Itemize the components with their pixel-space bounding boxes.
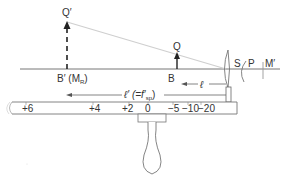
ruler-tick-plus6: +6	[22, 103, 34, 114]
optometer-diagram: Q′ Q B B′ (MR) S P M′ ℓ ℓ′ (=f′sp)	[0, 0, 291, 182]
speck	[26, 163, 27, 164]
ruler-tick-minus5: −5	[168, 103, 180, 114]
ruler-tick-0: 0	[145, 103, 151, 114]
label-b: B	[168, 73, 175, 84]
pupil-curve	[241, 61, 246, 82]
label-q: Q	[173, 41, 181, 52]
virtual-image-arrow	[64, 21, 71, 69]
label-q-prime: Q′	[62, 7, 72, 18]
label-ell: ℓ	[199, 79, 204, 90]
ruler-tick-plus4: +4	[89, 103, 101, 114]
lens-post	[226, 87, 231, 102]
label-p: P	[248, 58, 255, 69]
light-ray	[67, 22, 226, 69]
ell-distance-arrow	[181, 82, 226, 86]
ruler-tick-minus10: −10	[182, 103, 199, 114]
label-m-prime: M′	[265, 58, 275, 69]
ruler-tick-minus20: −20	[198, 103, 215, 114]
label-b-prime: B′ (MR)	[57, 73, 88, 85]
label-s: S	[234, 58, 241, 69]
ruler-tick-plus2: +2	[122, 103, 134, 114]
label-ell-prime: ℓ′ (=f′sp)	[123, 89, 155, 101]
handle	[138, 114, 166, 174]
